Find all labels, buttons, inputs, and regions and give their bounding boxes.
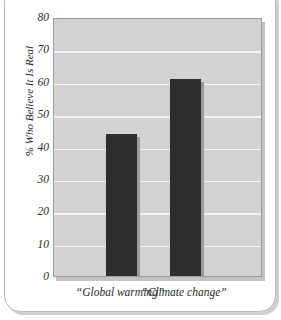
bar <box>170 79 201 276</box>
bar <box>106 134 137 276</box>
plot-area <box>53 18 262 277</box>
y-axis-tick-label: 0 <box>3 271 49 283</box>
y-axis-tick-label: 10 <box>3 239 49 251</box>
y-axis-tick-label: 20 <box>3 206 49 218</box>
y-axis-title: % Who Believe It Is Real <box>19 21 37 181</box>
x-axis-tick-label: “Climate change” <box>124 286 244 298</box>
gridline <box>54 246 261 248</box>
gridline <box>54 181 261 183</box>
y-axis-title-label: % Who Believe It Is Real <box>23 46 35 156</box>
gridline <box>54 51 261 53</box>
gridline <box>54 84 261 86</box>
gridline <box>54 116 261 118</box>
gridline <box>54 149 261 151</box>
gridline <box>54 213 261 215</box>
